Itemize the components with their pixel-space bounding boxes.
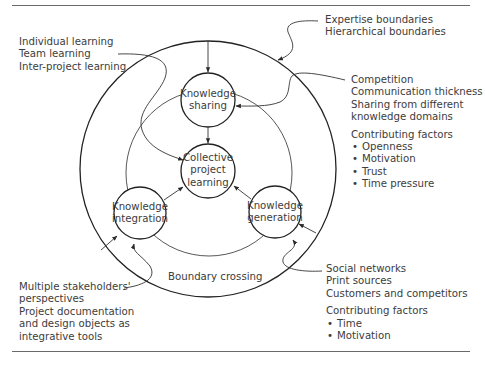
annotation-line: Team learning [19, 48, 126, 60]
collective-label-line: Collective [178, 152, 238, 164]
annotation-line: Customers and competitors [326, 288, 467, 300]
annotation-line: Communication thickness [351, 86, 483, 98]
integration-label-line: integration [110, 213, 170, 225]
annotation-line: Social networks [326, 263, 467, 275]
annotation-bottom-left: Multiple stakeholders' perspectives Proj… [19, 281, 134, 343]
annotation-line: and design objects as [19, 318, 134, 330]
annotation-line: perspectives [19, 293, 134, 305]
annotation-line: Inter-project learning [19, 61, 126, 73]
annotation-line: knowledge domains [351, 111, 483, 123]
factors-title: Contributing factors [351, 129, 483, 141]
annotation-top-right: Expertise boundaries Hierarchical bounda… [325, 14, 446, 39]
annotation-line: Individual learning [19, 36, 126, 48]
connector-competition [236, 73, 345, 106]
annotation-line: Competition [351, 74, 483, 86]
integration-node-label: Knowledge integration [110, 201, 170, 226]
factor-item: Motivation [351, 153, 483, 165]
annotation-line: integrative tools [19, 331, 134, 343]
integration-label-line: Knowledge [110, 201, 170, 213]
factor-item: Time pressure [351, 178, 483, 190]
factor-item: Motivation [326, 330, 467, 342]
annotation-line: Hierarchical boundaries [325, 26, 446, 38]
annotation-line: Print sources [326, 275, 467, 287]
factor-item: Time [326, 318, 467, 330]
annotation-line: Project documentation [19, 306, 134, 318]
connector-expertise-boundaries [278, 21, 318, 60]
collective-label-line: project [178, 164, 238, 176]
annotation-line: Multiple stakeholders' [19, 281, 134, 293]
boundary-crossing-label: Boundary crossing [168, 271, 262, 283]
factor-item: Trust [351, 166, 483, 178]
annotation-line: Expertise boundaries [325, 14, 446, 26]
factors-title: Contributing factors [326, 305, 467, 317]
generation-label-line: generation [245, 212, 305, 224]
annotation-top-left: Individual learning Team learning Inter-… [19, 36, 126, 73]
sharing-label-line: Knowledge [178, 88, 238, 100]
annotation-right-sharing: Competition Communication thickness Shar… [351, 74, 483, 191]
generation-label-line: Knowledge [245, 200, 305, 212]
knowledge-learning-diagram: Knowledge sharing Collective project lea… [0, 0, 485, 365]
collective-node-label: Collective project learning [178, 152, 238, 189]
annotation-bottom-right: Social networks Print sources Customers … [326, 263, 467, 342]
sharing-label-line: sharing [178, 100, 238, 112]
arrow-outer-to-generation [299, 224, 316, 233]
factor-item: Openness [351, 141, 483, 153]
generation-node-label: Knowledge generation [245, 200, 305, 225]
sharing-node-label: Knowledge sharing [178, 88, 238, 113]
annotation-line: Sharing from different [351, 99, 483, 111]
collective-label-line: learning [178, 177, 238, 189]
